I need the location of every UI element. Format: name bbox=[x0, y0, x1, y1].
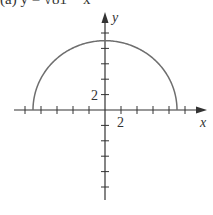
plot-area: 22xy bbox=[0, 0, 213, 215]
x-axis-arrow-icon bbox=[196, 107, 207, 114]
y-axis-arrow-icon bbox=[102, 12, 109, 23]
y-tick-label: 2 bbox=[91, 88, 98, 103]
y-axis-label: y bbox=[110, 10, 119, 25]
x-axis-label: x bbox=[199, 115, 207, 130]
x-tick-label: 2 bbox=[117, 115, 124, 130]
